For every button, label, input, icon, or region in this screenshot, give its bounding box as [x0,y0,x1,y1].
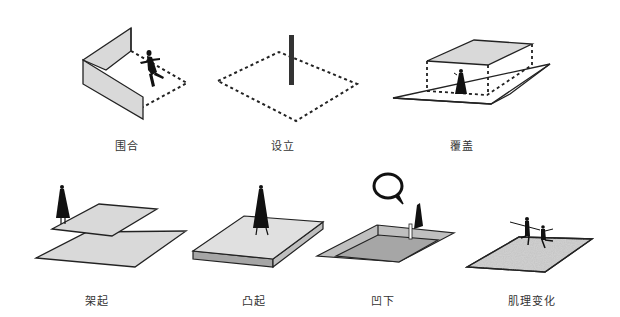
diagram-canvas [0,0,620,317]
roof-slab [427,40,532,65]
standing-figure-icon [253,185,269,235]
label-sink: 凹下 [371,292,395,308]
ground-plane [393,64,550,104]
speech-bubble-icon [374,174,403,204]
label-raise: 凸起 [242,292,266,308]
dashed-boundary [218,52,357,121]
running-figure-icon [140,50,164,87]
label-enclose: 围合 [115,137,139,153]
sink-diagram [317,174,454,262]
standing-figure-icon [454,69,467,94]
label-texture: 肌理变化 [508,292,556,308]
front-wall [83,60,143,119]
texture-diagram [467,217,592,272]
standing-figure-icon [56,185,70,224]
elevate-diagram [36,185,186,267]
cover-diagram [393,40,550,104]
set-up-diagram [218,35,357,121]
label-elevate: 架起 [85,292,109,308]
enclose-diagram [83,28,187,119]
raise-diagram [193,185,323,267]
vertical-post [289,35,294,85]
dashed-volume-lower [427,65,532,95]
label-cover: 覆盖 [450,137,474,153]
label-set-up: 设立 [271,137,295,153]
